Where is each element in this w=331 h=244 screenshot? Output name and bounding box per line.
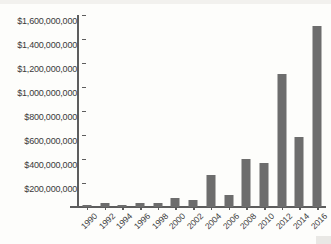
scan-artifact-top bbox=[0, 0, 331, 4]
bar bbox=[295, 137, 304, 207]
bar bbox=[189, 200, 198, 207]
bar-slot bbox=[96, 15, 114, 207]
y-axis-tick-label: $1,200,000,000 bbox=[17, 64, 86, 74]
y-axis-tick: $200,000,000 bbox=[0, 178, 86, 188]
bar bbox=[259, 163, 268, 207]
bar-slot bbox=[308, 15, 326, 207]
y-axis-tick-label: $1,400,000,000 bbox=[17, 40, 86, 50]
y-axis-tick: $400,000,000 bbox=[0, 154, 86, 164]
y-axis-tick: $1,600,000,000 bbox=[0, 10, 86, 20]
bar-slot bbox=[220, 15, 238, 207]
y-axis-tick: $600,000,000 bbox=[0, 130, 86, 140]
x-axis-tick-mark bbox=[211, 207, 213, 210]
x-axis-tick-mark bbox=[317, 207, 319, 210]
x-axis-tick-mark bbox=[140, 207, 142, 210]
bar-slot bbox=[202, 15, 220, 207]
y-axis-tick: $1,200,000,000 bbox=[0, 58, 86, 68]
x-axis-tick-mark bbox=[158, 207, 160, 210]
x-axis-tick-mark bbox=[282, 207, 284, 210]
y-axis-tick: $1,000,000,000 bbox=[0, 82, 86, 92]
bar-slot bbox=[149, 15, 167, 207]
bar-slot bbox=[255, 15, 273, 207]
x-axis-tick-mark bbox=[193, 207, 195, 210]
y-axis-tick: $1,400,000,000 bbox=[0, 34, 86, 44]
bar-slot bbox=[113, 15, 131, 207]
bar bbox=[206, 175, 215, 207]
scan-artifact-corner bbox=[316, 236, 331, 244]
bars-container bbox=[78, 15, 326, 207]
bar-chart: $200,000,000$400,000,000$600,000,000$800… bbox=[0, 0, 331, 244]
y-axis-tick-label: $1,000,000,000 bbox=[17, 88, 86, 98]
bar bbox=[313, 26, 322, 207]
x-axis-tick-mark bbox=[264, 207, 266, 210]
bar bbox=[171, 198, 180, 207]
bar-slot bbox=[273, 15, 291, 207]
bar bbox=[277, 74, 286, 207]
bar-slot bbox=[291, 15, 309, 207]
bar-slot bbox=[184, 15, 202, 207]
bar-slot bbox=[131, 15, 149, 207]
bar-slot bbox=[237, 15, 255, 207]
x-axis-tick-mark bbox=[105, 207, 107, 210]
y-axis-tick: $800,000,000 bbox=[0, 106, 86, 116]
x-axis-tick-mark bbox=[246, 207, 248, 210]
x-axis-tick-mark bbox=[229, 207, 231, 210]
bar-slot bbox=[78, 15, 96, 207]
x-axis-tick-mark bbox=[122, 207, 124, 210]
bar bbox=[224, 195, 233, 207]
x-axis-tick-mark bbox=[299, 207, 301, 210]
bar-slot bbox=[167, 15, 185, 207]
x-axis-tick-mark bbox=[175, 207, 177, 210]
bar bbox=[242, 159, 251, 207]
x-axis-tick-mark bbox=[87, 207, 89, 210]
y-axis-tick-label: $1,600,000,000 bbox=[17, 16, 86, 26]
